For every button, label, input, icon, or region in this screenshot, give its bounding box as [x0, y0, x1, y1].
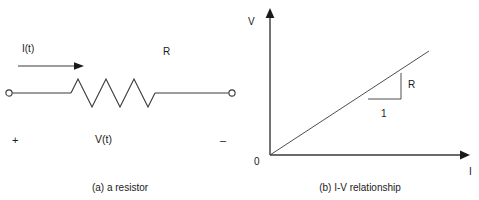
y-axis-icon [266, 8, 275, 155]
panel-iv-plot: V I 0 R 1 (b) I-V relationship [240, 0, 479, 200]
slope-rise-label: R [408, 80, 415, 90]
right-terminal-node-icon [229, 90, 235, 96]
panel-b-caption: (b) I-V relationship [250, 183, 470, 193]
slope-run-label: 1 [381, 109, 387, 119]
polarity-negative-label: – [220, 135, 226, 146]
current-label: I(t) [22, 44, 34, 54]
panel-resistor-schematic: I(t) R + V(t) – (a) a resistor [0, 0, 240, 200]
resistance-label: R [163, 47, 170, 57]
voltage-label: V(t) [95, 134, 112, 145]
slope-triangle-icon [368, 73, 401, 99]
x-axis-icon [270, 151, 470, 160]
figure-container: I(t) R + V(t) – (a) a resistor [0, 0, 479, 200]
current-arrow-icon [18, 62, 84, 70]
y-axis-label: V [248, 17, 255, 27]
iv-slope-line [270, 51, 429, 155]
iv-plot-drawing [240, 0, 479, 200]
polarity-positive-label: + [12, 135, 18, 146]
left-terminal-node-icon [6, 90, 12, 96]
x-axis-label: I [469, 167, 472, 177]
resistor-schematic-drawing [0, 0, 240, 200]
panel-a-caption: (a) a resistor [0, 183, 240, 193]
resistor-zigzag-icon [71, 79, 155, 107]
origin-label: 0 [254, 157, 260, 167]
